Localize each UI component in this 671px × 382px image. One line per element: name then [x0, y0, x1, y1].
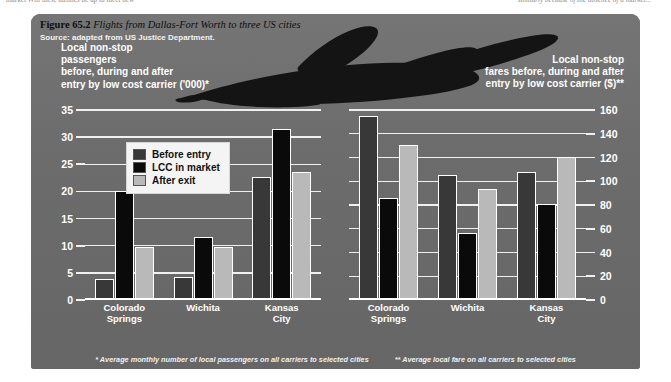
chart-title-line: entry by low cost carrier ($)** — [485, 78, 624, 90]
fares-chart: ColoradoSpringsWichitaKansasCity02040608… — [349, 110, 614, 300]
chart-title-line: passengers — [61, 54, 209, 66]
y-axis-tick-label: 30 — [33, 132, 73, 143]
axis-tick — [586, 157, 595, 159]
chart-title-line: fares before, during and after — [485, 66, 624, 78]
axis-tick — [76, 109, 85, 111]
legend-item: After exit — [133, 175, 220, 186]
axis-tick — [76, 191, 85, 193]
axis-tick — [586, 275, 595, 277]
bar — [214, 247, 233, 298]
bar-group: Wichita — [164, 110, 243, 298]
x-axis-category-label: KansasCity — [530, 302, 564, 324]
legend-swatch-before-entry — [133, 149, 146, 160]
y-axis-tick-label: 10 — [33, 241, 73, 252]
bar — [458, 233, 477, 298]
x-axis-category-label: Wichita — [451, 302, 485, 313]
y-axis-tick-label: 25 — [33, 159, 73, 170]
bar — [359, 116, 378, 298]
left-chart-title: Local non-stoppassengersbefore, during a… — [61, 42, 209, 91]
legend-item: LCC in market — [133, 162, 220, 173]
legend-swatch-lcc-in-market — [133, 162, 146, 173]
footnotes: * Average monthly number of local passen… — [31, 355, 640, 364]
bar — [557, 157, 576, 298]
page-text-left: market Will these airlines be up to meet… — [6, 0, 134, 4]
bar — [379, 198, 398, 298]
bar — [252, 177, 271, 298]
axis-tick — [76, 163, 85, 165]
y-axis-tick-label: 0 — [600, 295, 640, 306]
axis-tick — [586, 180, 595, 182]
bar — [478, 189, 497, 298]
right-chart-title: Local non-stopfares before, during and a… — [485, 54, 624, 91]
bar-group: ColoradoSprings — [349, 110, 428, 298]
bar — [115, 191, 134, 298]
footnote-passengers: * Average monthly number of local passen… — [95, 355, 368, 364]
bar — [135, 247, 154, 298]
axis-tick — [76, 272, 85, 274]
y-axis-tick-label: 5 — [33, 268, 73, 279]
x-axis-category-label: ColoradoSprings — [103, 302, 145, 324]
bar-group: KansasCity — [242, 110, 321, 298]
plot-area: ColoradoSpringsWichitaKansasCity — [349, 110, 586, 300]
figure-caption: Figure 65.2 Flights from Dallas-Fort Wor… — [40, 19, 301, 30]
y-axis-tick-label: 35 — [33, 105, 73, 116]
x-axis-category-label: KansasCity — [265, 302, 299, 324]
y-axis-tick-label: 20 — [600, 271, 640, 282]
y-axis-tick-label: 160 — [600, 105, 640, 116]
legend-item: Before entry — [133, 149, 220, 160]
footnote-fares: ** Average local fare on all carriers to… — [395, 355, 576, 364]
bar-group: KansasCity — [507, 110, 586, 298]
axis-tick — [76, 299, 85, 301]
y-axis-tick-label: 60 — [600, 224, 640, 235]
chart-title-line: Local non-stop — [485, 54, 624, 66]
figure-number: Figure 65.2 — [40, 19, 91, 30]
y-axis-tick-label: 20 — [33, 186, 73, 197]
figure-container: Figure 65.2 Flights from Dallas-Fort Wor… — [31, 14, 640, 369]
y-axis-tick-label: 15 — [33, 214, 73, 225]
axis-tick — [586, 109, 595, 111]
bar — [272, 129, 291, 298]
bar — [174, 277, 193, 298]
bar — [95, 279, 114, 298]
y-axis-tick-label: 40 — [600, 248, 640, 259]
plot-area: ColoradoSpringsWichitaKansasCity — [85, 110, 321, 300]
axis-tick — [586, 204, 595, 206]
chart-title-line: entry by low cost carrier ('000)* — [61, 79, 209, 91]
legend-label: After exit — [152, 175, 195, 186]
chart-legend: Before entry LCC in market After exit — [126, 142, 230, 194]
bar — [517, 172, 536, 298]
axis-tick — [76, 245, 85, 247]
bar — [194, 237, 213, 298]
axis-tick — [586, 133, 595, 135]
legend-swatch-after-exit — [133, 175, 146, 186]
bar-groups: ColoradoSpringsWichitaKansasCity — [349, 110, 586, 298]
bar-group: Wichita — [428, 110, 507, 298]
page-text-right: similarly because of the absence of a ma… — [518, 0, 651, 4]
figure-screenshot: market Will these airlines be up to meet… — [0, 0, 671, 382]
axis-tick — [586, 299, 595, 301]
x-axis-category-label: ColoradoSprings — [368, 302, 410, 324]
figure-title: Flights from Dallas-Fort Worth to three … — [93, 19, 300, 30]
y-axis-tick-label: 100 — [600, 176, 640, 187]
bar — [537, 204, 556, 298]
bar — [399, 145, 418, 298]
chart-title-line: Local non-stop — [61, 42, 209, 54]
legend-label: LCC in market — [152, 162, 220, 173]
page-text-strip: market Will these airlines be up to meet… — [0, 0, 671, 12]
x-axis-category-label: Wichita — [186, 302, 220, 313]
y-axis-tick-label: 140 — [600, 129, 640, 140]
axis-tick — [76, 136, 85, 138]
axis-tick — [586, 252, 595, 254]
y-axis-tick-label: 0 — [33, 295, 73, 306]
bar — [292, 172, 311, 298]
y-axis-tick-label: 80 — [600, 200, 640, 211]
legend-label: Before entry — [152, 149, 211, 160]
passengers-chart: ColoradoSpringsWichitaKansasCity05101520… — [57, 110, 321, 300]
figure-source: Source: adapted from US Justice Departme… — [40, 33, 215, 42]
axis-tick — [76, 218, 85, 220]
axis-tick — [586, 228, 595, 230]
bar-group: ColoradoSprings — [85, 110, 164, 298]
chart-title-line: before, during and after — [61, 66, 209, 78]
y-axis-tick-label: 120 — [600, 153, 640, 164]
bar — [438, 175, 457, 298]
